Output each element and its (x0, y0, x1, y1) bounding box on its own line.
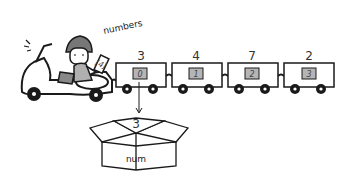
car-value: 3 (137, 49, 145, 63)
car-value: 7 (248, 49, 256, 63)
car-index: 3 (306, 70, 311, 79)
car-index: 1 (193, 70, 198, 79)
variable-box: 3 num (90, 117, 188, 170)
train-car-3: 2 3 (278, 49, 334, 94)
car-index: 0 (137, 70, 142, 79)
car-value: 2 (305, 49, 313, 63)
car-index: 2 (249, 70, 254, 79)
train-car-2: 7 2 (222, 49, 278, 94)
box-value: 3 (132, 117, 140, 131)
array-name-label: numbers (102, 18, 143, 36)
train-car-1: 4 1 (166, 49, 222, 94)
box-label: num (126, 154, 146, 164)
car-value: 4 (192, 49, 200, 63)
rider-icon (58, 36, 96, 84)
array-train-diagram: [4] numbers 3 0 4 1 7 2 2 3 (0, 0, 354, 181)
